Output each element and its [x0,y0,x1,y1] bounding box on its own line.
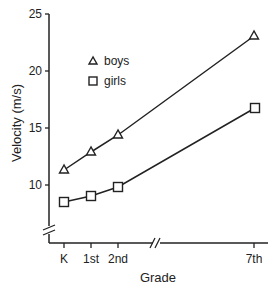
x-tick-2nd: 2nd [108,252,128,266]
legend-triangle-icon [89,57,97,64]
x-tick-7th: 7th [246,252,263,266]
velocity-chart: 25 20 15 10 Velocity (m/s) K 1st 2nd 7th… [0,0,277,290]
legend-square-icon [89,77,97,85]
triangle-marker [250,31,259,39]
square-marker [251,104,260,113]
x-axis: K 1st 2nd 7th Grade [49,238,268,285]
legend: boys girls [89,54,129,88]
y-tick-10: 10 [29,178,43,192]
triangle-marker [60,165,69,173]
y-axis-title: Velocity (m/s) [9,84,24,162]
x-axis-title: Grade [140,270,176,285]
triangle-marker [114,130,123,138]
y-tick-25: 25 [29,7,43,21]
legend-girls-label: girls [104,74,126,88]
y-axis: 25 20 15 10 Velocity (m/s) [9,7,55,243]
series-boys [60,31,259,173]
y-tick-15: 15 [29,121,43,135]
triangle-marker [87,147,96,155]
legend-boys-label: boys [104,54,129,68]
y-tick-20: 20 [29,64,43,78]
square-marker [114,183,123,192]
square-marker [87,192,96,201]
square-marker [60,198,69,207]
x-tick-1st: 1st [83,252,100,266]
x-tick-k: K [60,252,68,266]
